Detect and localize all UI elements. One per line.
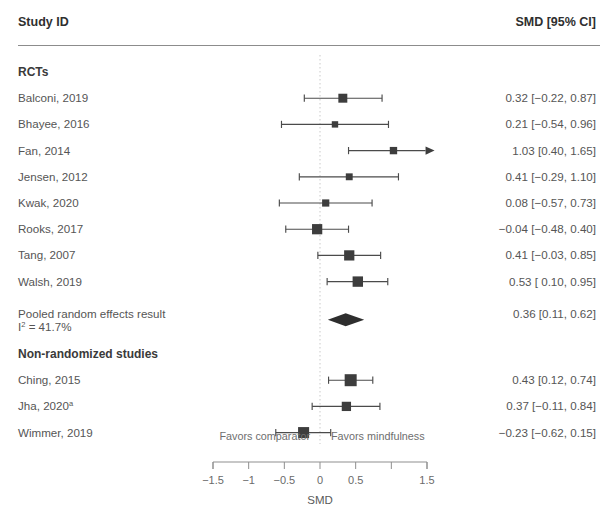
favors-mindfulness-label: Favors mindfulness xyxy=(331,430,425,442)
estimate-value: 0.08 [−0.57, 0.73] xyxy=(505,196,596,209)
estimate-value: −0.23 [−0.62, 0.15] xyxy=(499,426,596,439)
effect-marker xyxy=(342,402,351,411)
estimate-value: 0.43 [0.12, 0.74] xyxy=(512,373,596,386)
study-label: Tang, 2007 xyxy=(18,248,75,261)
study-label: Wimmer, 2019 xyxy=(18,426,93,439)
smd-ci-header: SMD [95% CI] xyxy=(515,15,596,29)
forest-plot: Study IDSMD [95% CI]RCTsBalconi, 20190.3… xyxy=(0,0,614,529)
effect-marker xyxy=(338,94,347,103)
study-label: Ching, 2015 xyxy=(18,373,81,386)
pooled-estimate-value: 0.36 [0.11, 0.62] xyxy=(513,307,596,320)
estimate-value: 0.37 [−0.11, 0.84] xyxy=(506,399,596,412)
study-label: Jha, 2020a xyxy=(18,399,74,412)
estimate-value: 0.32 [−0.22, 0.87] xyxy=(505,91,596,104)
x-axis-tick-label: −1 xyxy=(242,474,255,486)
estimate-value: 0.53 [ 0.10, 0.95] xyxy=(509,275,596,288)
x-axis-tick-label: 0 xyxy=(317,474,323,486)
pooled-diamond xyxy=(328,313,364,326)
estimate-value: 0.41 [−0.29, 1.10] xyxy=(505,170,596,183)
section-heading: RCTs xyxy=(18,65,49,79)
x-axis-tick-label: −0.5 xyxy=(273,474,295,486)
effect-marker xyxy=(332,121,338,127)
effect-marker xyxy=(390,147,397,154)
study-label: Kwak, 2020 xyxy=(18,196,79,209)
favors-comparator-label: Favors comparator xyxy=(219,430,310,442)
study-id-header: Study ID xyxy=(18,15,69,29)
x-axis-tick-label: −1.5 xyxy=(202,474,224,486)
effect-marker xyxy=(344,250,354,260)
x-axis-title: SMD xyxy=(307,494,333,506)
heterogeneity-label: I2 = 41.7% xyxy=(18,320,72,333)
estimate-value: 1.03 [0.40, 1.65] xyxy=(512,144,596,157)
effect-marker xyxy=(346,173,353,180)
estimate-value: −0.04 [−0.48, 0.40] xyxy=(499,222,596,235)
effect-marker xyxy=(353,276,363,286)
study-label: Rooks, 2017 xyxy=(18,222,83,235)
effect-marker xyxy=(345,374,357,386)
pooled-label: Pooled random effects result xyxy=(18,307,166,320)
study-label: Balconi, 2019 xyxy=(18,91,88,104)
study-label: Walsh, 2019 xyxy=(18,275,82,288)
ci-arrow-right xyxy=(426,146,435,154)
study-label: Jensen, 2012 xyxy=(18,170,88,183)
effect-marker xyxy=(322,199,329,206)
x-axis-tick-label: 0.5 xyxy=(348,474,363,486)
estimate-value: 0.41 [−0.03, 0.85] xyxy=(505,248,596,261)
estimate-value: 0.21 [−0.54, 0.96] xyxy=(505,117,596,130)
x-axis-tick-label: 1.5 xyxy=(419,474,434,486)
effect-marker xyxy=(312,224,322,234)
study-label: Bhayee, 2016 xyxy=(18,117,90,130)
study-label: Fan, 2014 xyxy=(18,144,71,157)
section-heading: Non-randomized studies xyxy=(18,347,158,361)
